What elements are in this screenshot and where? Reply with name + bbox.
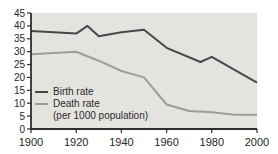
x-tick-label: 1920 xyxy=(64,136,88,148)
y-tick-label: 0 xyxy=(19,124,25,135)
birth-death-rate-chart: 0510152025303540451900192019401960198020… xyxy=(0,0,278,154)
y-tick-label: 5 xyxy=(19,111,25,122)
x-tick-label: 1960 xyxy=(154,136,178,148)
y-tick-label: 10 xyxy=(14,98,26,109)
y-tick-label: 45 xyxy=(14,8,26,19)
chart-legend: Birth rate Death rate (per 1000 populati… xyxy=(35,86,148,122)
y-tick-label: 20 xyxy=(14,72,26,83)
y-tick-label: 40 xyxy=(14,20,26,31)
birth-rate-swatch-line xyxy=(35,91,48,93)
y-tick-label: 15 xyxy=(14,85,26,96)
x-tick-label: 1900 xyxy=(19,136,43,148)
birth-rate-legend-label: Birth rate xyxy=(53,86,94,98)
x-tick-label: 2000 xyxy=(245,136,269,148)
death-rate-swatch-line xyxy=(35,103,48,105)
legend-item-birth-rate: Birth rate xyxy=(35,86,148,98)
chart-canvas: 0510152025303540451900192019401960198020… xyxy=(0,0,278,154)
legend-unit-note: (per 1000 population) xyxy=(53,110,148,122)
y-tick-label: 35 xyxy=(14,33,26,44)
death-rate-legend-label: Death rate xyxy=(53,98,100,110)
y-tick-label: 30 xyxy=(14,46,26,57)
legend-item-death-rate: Death rate xyxy=(35,98,148,110)
x-tick-label: 1940 xyxy=(109,136,133,148)
y-tick-label: 25 xyxy=(14,59,26,70)
x-tick-label: 1980 xyxy=(200,136,224,148)
